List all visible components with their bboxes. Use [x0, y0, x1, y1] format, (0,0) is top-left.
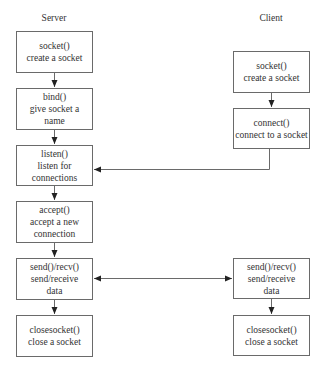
- client-connect-to-server-listen-arrow: [94, 149, 270, 170]
- client-socket-call: socket(): [256, 60, 287, 72]
- server-closesocket-desc: close a socket: [28, 336, 81, 348]
- server-listen-desc-2: connections: [32, 172, 77, 184]
- server-send-recv-desc-1: send/receive: [31, 273, 78, 285]
- client-closesocket-call: closesocket(): [246, 324, 296, 336]
- server-listen-call: listen(): [41, 148, 68, 160]
- client-connect-desc: connect to a socket: [235, 129, 308, 141]
- server-closesocket-call: closesocket(): [29, 324, 79, 336]
- server-bind-call: bind(): [43, 91, 66, 103]
- server-socket-call: socket(): [39, 40, 70, 52]
- client-connect-call: connect(): [254, 117, 290, 129]
- server-socket-box: socket() create a socket: [16, 31, 93, 73]
- client-send-recv-desc-2: data: [264, 285, 280, 297]
- client-send-recv-call: send()/recv(): [247, 261, 296, 273]
- server-send-recv-call: send()/recv(): [30, 261, 79, 273]
- client-connect-box: connect() connect to a socket: [233, 108, 310, 149]
- server-send-recv-desc-2: data: [47, 285, 63, 297]
- server-column-title: Server: [14, 13, 94, 23]
- server-bind-box: bind() give socket a name: [16, 88, 93, 130]
- client-socket-box: socket() create a socket: [233, 51, 310, 93]
- server-listen-box: listen() listen for connections: [16, 145, 93, 186]
- server-accept-desc-1: accept a new: [30, 216, 79, 228]
- server-listen-desc-1: listen for: [37, 160, 71, 172]
- server-send-recv-box: send()/recv() send/receive data: [16, 258, 93, 300]
- server-accept-box: accept() accept a new connection: [16, 201, 93, 243]
- server-closesocket-box: closesocket() close a socket: [16, 315, 93, 357]
- client-send-recv-box: send()/recv() send/receive data: [233, 258, 310, 299]
- client-closesocket-desc: close a socket: [245, 336, 298, 348]
- server-bind-desc-1: give socket a: [30, 103, 80, 115]
- server-accept-desc-2: connection: [34, 228, 76, 240]
- server-accept-call: accept(): [39, 204, 70, 216]
- server-socket-desc: create a socket: [27, 52, 83, 64]
- client-send-recv-desc-1: send/receive: [248, 273, 295, 285]
- server-bind-desc-2: name: [44, 115, 65, 127]
- client-column-title: Client: [231, 13, 311, 23]
- client-closesocket-box: closesocket() close a socket: [233, 315, 310, 356]
- client-socket-desc: create a socket: [244, 72, 300, 84]
